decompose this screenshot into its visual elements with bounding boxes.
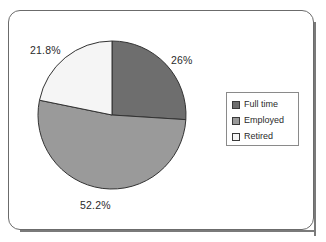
legend-item-full-time[interactable]: Full time [232, 97, 298, 112]
legend-item-retired[interactable]: Retired [232, 129, 298, 144]
pie-slice-full-time[interactable] [112, 41, 186, 120]
legend-swatch-retired [232, 133, 240, 141]
pie-chart-figure: 26% 52.2% 21.8% Full time Employed Retir… [0, 0, 326, 242]
legend-label-employed: Employed [244, 116, 284, 125]
legend-swatch-full-time [232, 101, 240, 109]
legend-item-employed[interactable]: Employed [232, 113, 298, 128]
legend-swatch-employed [232, 117, 240, 125]
slice-label-employed: 52.2% [80, 199, 111, 211]
pie-slices [38, 41, 186, 189]
chart-legend: Full time Employed Retired [226, 92, 299, 146]
legend-label-full-time: Full time [244, 100, 278, 109]
slice-label-retired: 21.8% [30, 44, 61, 56]
legend-label-retired: Retired [244, 132, 273, 141]
slice-label-full-time: 26% [171, 54, 193, 66]
